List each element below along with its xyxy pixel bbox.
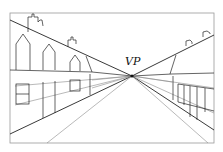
left-building xyxy=(10,14,132,118)
perspective-drawing xyxy=(0,0,223,152)
vanishing-point-label: VP xyxy=(125,56,140,68)
perspective-diagram: VP xyxy=(0,0,223,152)
orthogonal-lines xyxy=(10,20,214,134)
vanishing-point-marker xyxy=(130,74,133,77)
right-building xyxy=(132,31,214,120)
